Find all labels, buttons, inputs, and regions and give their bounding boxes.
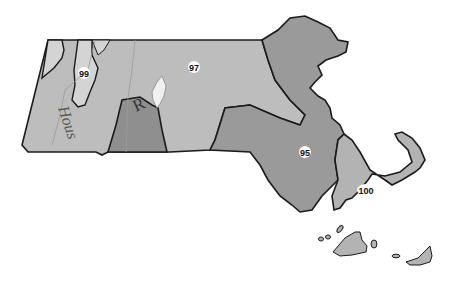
label-95-text: 95 (300, 148, 310, 158)
label-97-text: 97 (189, 63, 199, 73)
zone-100-region (332, 132, 425, 210)
label-97: 97 (188, 61, 200, 73)
island (371, 240, 377, 248)
island (392, 254, 400, 258)
label-99-text: 99 (79, 69, 89, 79)
label-99: 99 (78, 67, 90, 79)
island (319, 237, 324, 241)
label-95: 95 (299, 146, 311, 158)
island (326, 235, 331, 239)
label-100: 100 (357, 184, 375, 196)
marthas-vineyard-island (333, 232, 367, 256)
nantucket-island (406, 246, 432, 265)
massachusetts-map: 99 97 95 100 Hous R (0, 0, 456, 282)
island (336, 225, 344, 234)
label-100-text: 100 (358, 186, 373, 196)
